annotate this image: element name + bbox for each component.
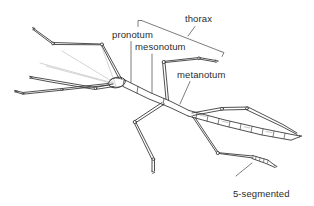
head-thorax-joint: [123, 80, 124, 87]
stick-insect-diagram: thorax pronotum mesonotum metanotum 5-se…: [0, 0, 314, 206]
thorax-bracket-left-hook: [138, 21, 142, 27]
midleg-low-tarsus-tip: [152, 171, 155, 173]
tarsus-leader: [236, 163, 252, 176]
foreleg-posterior-edge: [33, 30, 122, 80]
midleg-up-knee: [162, 60, 165, 63]
hindleg-low-anterior-edge: [192, 116, 253, 156]
hindleg-low-knee: [216, 151, 219, 154]
midleg-up-joint: [198, 57, 201, 60]
hindleg-up-joint: [246, 107, 249, 110]
hindleg-lower-group: [192, 116, 277, 168]
label-tarsus: 5-segmented tarsus: [222, 177, 290, 206]
midleg-low-anterior-edge: [134, 103, 163, 172]
midleg-up-tip: [216, 60, 219, 62]
stick-insect-line-art: [0, 0, 314, 206]
thorax-group: [123, 80, 189, 117]
midleg-low-joint: [152, 158, 155, 161]
hindleg-low-posterior-edge: [195, 118, 253, 159]
tarsus-lower-edge: [252, 159, 274, 168]
abdominal-segment-shading: [200, 115, 272, 132]
tarsal-claw: [274, 165, 277, 168]
midleg-low-posterior-edge: [136, 104, 165, 171]
label-mesonotum: mesonotum: [135, 41, 186, 52]
foreleg-group: [32, 28, 122, 80]
abdomen-ventral-edge: [188, 116, 300, 140]
thorax-bracket-right-hook: [221, 52, 224, 57]
midleg-low-knee: [133, 120, 136, 123]
foreleg-femur-tibia-joint: [101, 43, 104, 46]
hindleg-up-knee: [221, 107, 224, 110]
label-metanotum: metanotum: [177, 69, 225, 80]
hindleg-up-upper-edge: [192, 107, 297, 133]
antenna-tip: [15, 91, 18, 92]
metanotum-leader: [180, 82, 190, 105]
antenna-joint-2: [22, 93, 24, 95]
abdomen-dorsal-edge: [189, 111, 300, 137]
label-tarsus-line1: 5-segmented: [233, 188, 290, 199]
five-segmented-tarsus: [252, 156, 277, 168]
abdominal-segment-sutures: [196, 113, 285, 139]
midleg-lower-group: [133, 103, 164, 174]
foreleg-tibia-tarsus-joint: [52, 42, 55, 45]
foreleg2-joint: [94, 87, 96, 89]
pronotum-mesonotum-suture: [137, 86, 138, 93]
thorax-ventral-edge: [123, 87, 188, 117]
foreleg-anterior-edge: [33, 28, 119, 79]
label-thorax: thorax: [185, 13, 212, 24]
label-pronotum: pronotum: [112, 29, 153, 40]
thorax-leader: [188, 27, 195, 37]
antenna-joint: [61, 88, 63, 90]
